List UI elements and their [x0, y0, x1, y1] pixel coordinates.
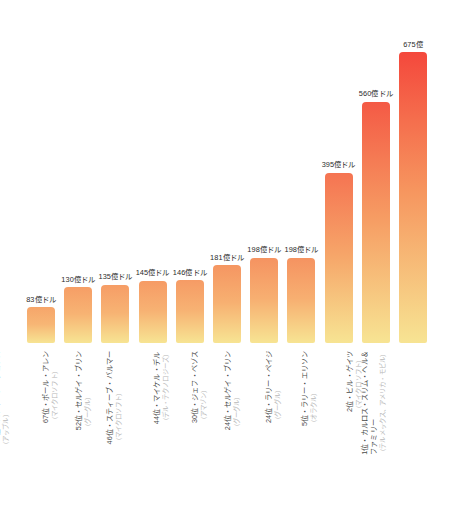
- axis-label-person-cont: ファミリー: [370, 351, 379, 455]
- axis-label-person: 24位・ラリー・ペイジ: [265, 351, 274, 423]
- bar-value-label: 146億ドル: [173, 269, 207, 276]
- axis-label: 52位・セルゲイ・ブリン（グーグル）: [76, 272, 93, 351]
- bar-value-label: 395億ドル: [322, 161, 356, 168]
- bar-value-label: 181億ドル: [210, 254, 244, 261]
- axis-label: 24位・ラリー・ペイジ（グーグル）: [265, 279, 282, 351]
- chart-x-axis-labels: 110位・スティーブ・ジョブズ（アップル）67位・ポール・アレン（マイクロソフト…: [0, 345, 470, 505]
- axis-label-person: 46位・スティーブ・バルマー: [106, 351, 115, 444]
- axis-label: 24位・セルゲイ・ブリン（グーグル）: [225, 272, 242, 351]
- bar-slot: 675億: [399, 0, 427, 345]
- axis-label-company: （アップル）: [2, 351, 10, 448]
- axis-label-company: （マイクロソフト）: [51, 351, 59, 423]
- axis-label: 67位・ポール・アレン（マイクロソフト）: [42, 279, 59, 351]
- axis-label-person: 52位・セルゲイ・ブリン: [76, 351, 85, 430]
- bar-value-label: 560億ドル: [359, 90, 393, 97]
- axis-label-slot: 1位・カルロス・スリム・ヘル＆ファミリー（テルメックス、アメリカ・モビル）: [399, 345, 427, 505]
- axis-label: 110位・スティーブ・ジョブズ（アップル）: [0, 254, 10, 351]
- axis-label-company: （グーグル）: [85, 351, 93, 430]
- axis-label-person: 2位・ビル・ゲイツ: [345, 351, 354, 412]
- axis-label-company: （マイクロソフト）: [115, 351, 123, 444]
- axis-label-person: 5位・ラリー・エリソン: [301, 351, 310, 426]
- axis-label: 1位・カルロス・スリム・ヘル＆ファミリー（テルメックス、アメリカ・モビル）: [361, 247, 387, 351]
- axis-label: 44位・マイケル・デル（デル・テクノロジーズ）: [153, 278, 170, 351]
- axis-label-company: （グーグル）: [275, 351, 283, 423]
- axis-label-person: 24位・セルゲイ・ブリン: [225, 351, 234, 430]
- axis-label: 30位・ジェフ・ベゾス（アマゾン）: [191, 279, 208, 351]
- bar: [399, 52, 427, 343]
- axis-label-person: 67位・ポール・アレン: [42, 351, 51, 423]
- axis-label: 46位・スティーブ・バルマー（マイクロソフト）: [106, 258, 123, 351]
- axis-label-company: （テルメックス、アメリカ・モビル）: [379, 351, 387, 455]
- axis-label-company: （アマゾン）: [200, 351, 208, 423]
- axis-label-company: （オラクル）: [310, 351, 318, 426]
- axis-label-company: （デル・テクノロジーズ）: [162, 351, 170, 424]
- axis-label-person: 30位・ジェフ・ベゾス: [191, 351, 200, 423]
- bar-value-label: 198億ドル: [247, 246, 281, 253]
- axis-label: 2位・ビル・ゲイツ（マイクロソフト）: [345, 290, 362, 351]
- axis-label-person: 44位・マイケル・デル: [153, 351, 162, 424]
- bar-value-label: 145億ドル: [136, 269, 170, 276]
- axis-label: 5位・ラリー・エリソン（オラクル）: [301, 276, 318, 351]
- bar-chart: 83億ドル130億ドル135億ドル145億ドル146億ドル181億ドル198億ド…: [0, 0, 470, 505]
- axis-label-company: （グーグル）: [234, 351, 242, 430]
- bar-value-label: 675億: [403, 41, 423, 48]
- bar-value-label: 198億ドル: [284, 246, 318, 253]
